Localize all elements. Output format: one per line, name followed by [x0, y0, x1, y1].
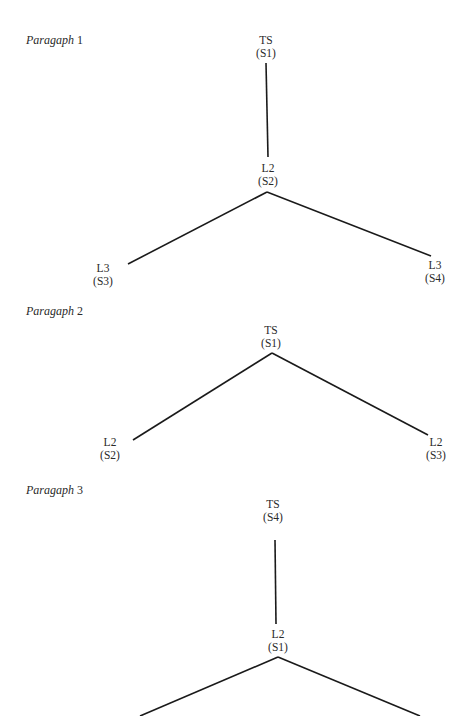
node-sentence: (S2): [243, 175, 293, 188]
node-sentence: (S1): [253, 641, 303, 654]
node-level: L2: [85, 436, 135, 449]
p1-node-ts: TS (S1): [241, 34, 291, 60]
p2-node-l2-s3: L2 (S3): [411, 436, 461, 462]
paragraph-number: 3: [77, 483, 83, 497]
p2-node-ts: TS (S1): [246, 324, 296, 350]
node-level: TS: [241, 34, 291, 47]
edge-p2-ts-l2a: [133, 353, 272, 440]
node-level: L3: [410, 259, 460, 272]
node-level: TS: [248, 498, 298, 511]
paragraph-2-label: Paragaph 2: [26, 304, 83, 319]
node-sentence: (S4): [410, 272, 460, 285]
edge-p3-l2-right: [278, 657, 420, 716]
node-sentence: (S1): [241, 47, 291, 60]
paragraph-word: Paragaph: [26, 304, 74, 318]
node-level: TS: [246, 324, 296, 337]
node-level: L2: [411, 436, 461, 449]
edge-p3-ts-l2: [275, 540, 276, 624]
p1-node-l3-s3: L3 (S3): [78, 262, 128, 288]
paragraph-3-label: Paragaph 3: [26, 483, 83, 498]
p3-node-ts: TS (S4): [248, 498, 298, 524]
node-sentence: (S4): [248, 511, 298, 524]
edge-p1-l2-l3b: [267, 192, 431, 256]
node-sentence: (S2): [85, 449, 135, 462]
paragraph-number: 2: [77, 304, 83, 318]
p1-node-l3-s4: L3 (S4): [410, 259, 460, 285]
paragraph-number: 1: [77, 33, 83, 47]
paragraph-1-label: Paragaph 1: [26, 33, 83, 48]
paragraph-word: Paragaph: [26, 33, 74, 47]
node-level: L3: [78, 262, 128, 275]
paragraph-word: Paragaph: [26, 483, 74, 497]
p3-node-l2: L2 (S1): [253, 628, 303, 654]
node-level: L2: [253, 628, 303, 641]
edge-p2-ts-l2b: [272, 353, 428, 435]
p1-node-l2: L2 (S2): [243, 162, 293, 188]
node-sentence: (S1): [246, 337, 296, 350]
edge-p1-ts-l2: [266, 63, 268, 157]
tree-edges: [0, 0, 471, 716]
edge-p1-l2-l3a: [128, 192, 267, 264]
node-level: L2: [243, 162, 293, 175]
p2-node-l2-s2: L2 (S2): [85, 436, 135, 462]
node-sentence: (S3): [78, 275, 128, 288]
edge-p3-l2-left: [140, 657, 278, 716]
node-sentence: (S3): [411, 449, 461, 462]
